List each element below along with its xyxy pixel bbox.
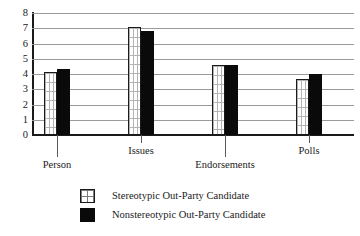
bar-endorsements-nonstereotypic [225, 65, 238, 135]
bar-polls-stereotypic [296, 79, 309, 135]
category-text-person: Person [43, 159, 72, 171]
leader-line-person [57, 135, 58, 157]
category-text-endorsements: Endorsements [195, 159, 255, 171]
bar-group-issues [128, 13, 154, 135]
leader-line-endorsements [225, 135, 226, 157]
legend-item-nonstereotypic: Nonstereotypic Out-Party Candidate [80, 205, 265, 224]
bar-group-polls [296, 13, 322, 135]
bar-polls-nonstereotypic [309, 74, 322, 135]
legend-item-stereotypic: Stereotypic Out-Party Candidate [80, 186, 265, 205]
y-tick-2: 2 [0, 100, 28, 110]
bar-person-stereotypic [44, 72, 57, 135]
bar-endorsements-stereotypic [212, 65, 225, 135]
category-text-polls: Polls [298, 145, 319, 157]
y-tick-7: 7 [0, 23, 28, 33]
bar-issues-nonstereotypic [141, 31, 154, 135]
bar-group-endorsements [212, 13, 238, 135]
bar-chart: 8 7 6 5 4 3 2 1 0 [0, 0, 360, 236]
y-tick-8: 8 [0, 8, 28, 18]
y-axis-tick-labels: 8 7 6 5 4 3 2 1 0 [0, 13, 28, 135]
leader-line-issues [141, 135, 142, 143]
plot-area [32, 13, 354, 135]
bar-issues-stereotypic [128, 27, 141, 135]
legend-swatch-stereotypic-icon [80, 189, 95, 203]
y-tick-5: 5 [0, 54, 28, 64]
bar-person-nonstereotypic [57, 69, 70, 135]
legend-swatch-nonstereotypic-icon [80, 208, 95, 222]
y-tick-4: 4 [0, 69, 28, 79]
y-tick-1: 1 [0, 115, 28, 125]
legend-label-stereotypic: Stereotypic Out-Party Candidate [112, 190, 249, 202]
x-axis-category-labels: Person Issues Endorsements Polls [0, 135, 360, 180]
legend-label-nonstereotypic: Nonstereotypic Out-Party Candidate [112, 209, 265, 221]
y-tick-6: 6 [0, 39, 28, 49]
leader-line-polls [309, 135, 310, 143]
chart-legend: Stereotypic Out-Party Candidate Nonstere… [80, 186, 265, 224]
y-tick-3: 3 [0, 84, 28, 94]
bar-groups [32, 13, 354, 135]
bar-group-person [44, 13, 70, 135]
category-text-issues: Issues [128, 145, 154, 157]
